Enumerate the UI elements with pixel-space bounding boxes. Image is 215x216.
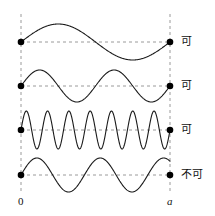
axis-label-origin: 0 [18, 196, 24, 207]
standing-wave-figure: 可 可 可 不可 0 a [0, 0, 215, 216]
node-dot-left-wave-4 [18, 172, 25, 179]
node-dot-right-wave-3 [167, 127, 174, 134]
wave-diagram-canvas [0, 0, 215, 216]
row-label-wave-4: 不可 [181, 169, 203, 180]
node-dot-right-wave-2 [167, 83, 174, 90]
node-dot-left-wave-3 [18, 127, 25, 134]
row-label-wave-3: 可 [181, 124, 192, 135]
node-dot-left-wave-1 [18, 39, 25, 46]
row-label-wave-2: 可 [181, 80, 192, 91]
row-label-wave-1: 可 [181, 36, 192, 47]
node-dot-right-wave-4 [167, 172, 174, 179]
node-dot-left-wave-2 [18, 83, 25, 90]
node-dot-right-wave-1 [167, 39, 174, 46]
axis-label-a: a [167, 196, 173, 207]
